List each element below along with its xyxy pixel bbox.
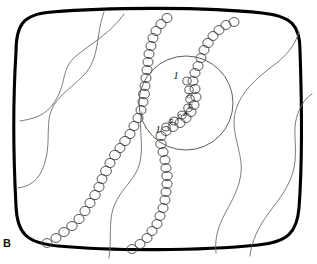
contour-line-1 (20, 14, 124, 121)
label-2: 2 (186, 91, 191, 100)
label-5: 5 (174, 112, 183, 121)
contour-line-3 (109, 112, 142, 258)
label-3: 3 (187, 101, 194, 111)
label-1-lower: 1 (155, 123, 161, 135)
contour-line-2 (18, 12, 104, 188)
magnified-region-circle (139, 56, 233, 150)
bead-chain-left (42, 13, 172, 247)
contour-line-4 (216, 32, 299, 253)
panel-letter-b: B (3, 238, 11, 249)
figure-canvas: 1234561 (0, 0, 317, 264)
figure-panel-b: 1234561 B (0, 0, 317, 264)
label-1-upper: 1 (173, 69, 179, 81)
